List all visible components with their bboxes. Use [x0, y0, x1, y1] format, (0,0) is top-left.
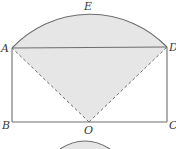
- label-A: A: [0, 42, 9, 55]
- geometry-diagram: A D E B O C: [0, 0, 176, 149]
- label-B: B: [1, 119, 10, 132]
- label-D: D: [168, 41, 176, 54]
- label-C: C: [169, 119, 176, 132]
- label-E: E: [83, 0, 92, 13]
- shaded-sector-AOD: [12, 14, 167, 122]
- label-O: O: [84, 124, 93, 137]
